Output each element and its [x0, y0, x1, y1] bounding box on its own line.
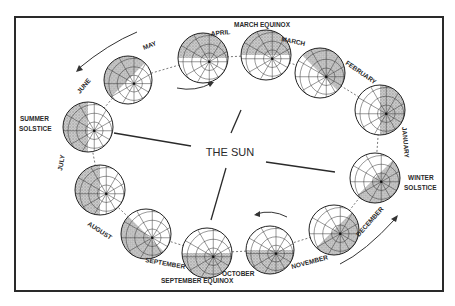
sun-label: THE SUN [206, 146, 254, 158]
label-august: AUGUST [86, 220, 113, 241]
orbit-diagram-svg: THE SUN MARCH EQUINOX MARCH APRIL MAY JU… [0, 0, 455, 306]
arrow-top-small [177, 83, 212, 89]
label-october: OCTOBER [222, 270, 255, 277]
label-july: JULY [56, 154, 66, 172]
label-winter-solstice-2: SOLSTICE [404, 184, 437, 191]
globe-november [228, 206, 324, 302]
label-summer-solstice-2: SOLSTICE [19, 125, 52, 132]
orbit-diagram: THE SUN MARCH EQUINOX MARCH APRIL MAY JU… [0, 0, 455, 306]
sun-rays [114, 110, 335, 220]
label-april: APRIL [210, 28, 230, 37]
label-june: JUNE [75, 76, 92, 94]
label-february: FEBRUARY [344, 59, 378, 86]
arrowhead-icon [391, 215, 398, 222]
label-march-equinox: MARCH EQUINOX [234, 21, 291, 29]
label-summer-solstice-1: SUMMER [20, 115, 49, 122]
arrowhead-icon [254, 211, 260, 217]
label-december: DECEMBER [355, 205, 385, 238]
label-may: MAY [142, 39, 158, 51]
label-november: NOVEMBER [290, 253, 328, 270]
globe-january [336, 64, 436, 164]
label-september: SEPTEMBER [145, 256, 186, 270]
label-winter-solstice-1: WINTER [408, 174, 434, 181]
arrow-bottom-small [256, 212, 287, 217]
label-january: JANUARY [401, 126, 411, 158]
label-september-equinox: SEPTEMBER EQUINOX [161, 277, 234, 285]
